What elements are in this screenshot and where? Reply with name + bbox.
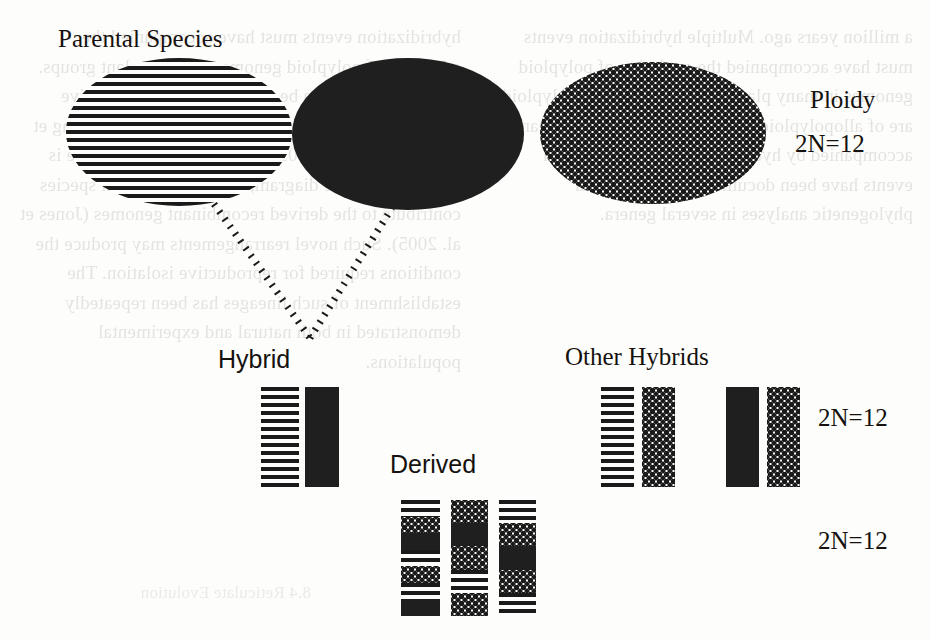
- parental-species-label: Parental Species: [58, 25, 223, 53]
- derived-chromosome-2: [451, 500, 488, 616]
- derived-chromosome-2-segment-2: [451, 523, 488, 546]
- ghost-text-footer: 8.4 Reticulate Evolution: [11, 578, 311, 608]
- derived-chromosome-2-segment-5: [451, 593, 488, 616]
- derived-chromosome-3: [499, 500, 536, 616]
- parental-species-ellipse-solid: [292, 58, 524, 210]
- parental-species-ellipse-dotted: [540, 62, 766, 204]
- derived-chromosome-1-segment-3: [401, 533, 440, 550]
- other-hybrid-2-chromosome-solid: [726, 387, 759, 487]
- derived-chromosome-2-segment-4: [451, 570, 488, 593]
- derived-chromosome-3-segment-4: [499, 570, 536, 593]
- derived-chromosome-3-segment-1: [499, 500, 536, 523]
- derived-chromosome-1-segment-5: [401, 566, 440, 583]
- other-hybrid-2-chromosome-dotted: [767, 387, 800, 487]
- ploidy-value-derived: 2N=12: [818, 527, 888, 555]
- derived-chromosome-2-segment-1: [451, 500, 488, 523]
- derived-chromosome-2-segment-3: [451, 546, 488, 569]
- hybrid-speciation-diagram: a million years ago. Multiple hybridizat…: [0, 0, 931, 641]
- ploidy-header-label: Ploidy: [810, 86, 875, 114]
- hybrid-chromosome-striped: [261, 387, 299, 487]
- other-hybrid-1-chromosome-striped: [601, 387, 634, 487]
- other-hybrids-label: Other Hybrids: [565, 343, 709, 371]
- derived-chromosome-3-segment-3: [499, 546, 536, 569]
- ploidy-value-hybrids: 2N=12: [818, 404, 888, 432]
- derived-chromosome-3-segment-5: [499, 593, 536, 616]
- derived-chromosome-1-segment-7: [401, 599, 440, 616]
- derived-label: Derived: [390, 450, 476, 479]
- hybrid-chromosome-solid: [305, 387, 339, 487]
- derived-chromosome-1-segment-6: [401, 583, 440, 600]
- other-hybrid-1-chromosome-dotted: [642, 387, 675, 487]
- ploidy-value-parental: 2N=12: [795, 130, 865, 158]
- derived-chromosome-1-segment-4: [401, 550, 440, 567]
- parental-species-ellipse-striped: [66, 58, 292, 206]
- derived-chromosome-1-segment-1: [401, 500, 440, 517]
- hybrid-label: Hybrid: [218, 345, 290, 374]
- derived-chromosome-3-segment-2: [499, 523, 536, 546]
- derived-chromosome-1: [401, 500, 440, 616]
- derived-chromosome-1-segment-2: [401, 517, 440, 534]
